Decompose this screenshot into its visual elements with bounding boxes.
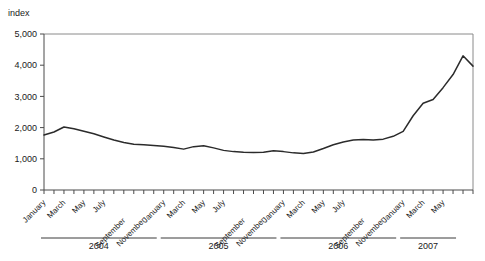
y-tick-label: 4,000: [14, 60, 37, 70]
x-tick-label: May: [190, 198, 207, 215]
plot-border: [44, 34, 473, 190]
y-tick-label: 3,000: [14, 92, 37, 102]
x-tick-label: March: [45, 198, 67, 220]
data-line-series: [44, 56, 473, 154]
y-tick-label: 0: [32, 185, 37, 195]
x-tick-label: May: [429, 198, 446, 215]
x-tick-label: March: [404, 198, 426, 220]
chart-canvas: index01,0002,0003,0004,0005,000JanuaryMa…: [0, 0, 485, 261]
x-tick-label: January: [21, 198, 47, 224]
x-tick-label: March: [285, 198, 307, 220]
x-tick-label: January: [141, 198, 167, 224]
year-label: 2007: [418, 241, 438, 251]
line-chart: index01,0002,0003,0004,0005,000JanuaryMa…: [0, 0, 485, 261]
y-axis-title: index: [8, 8, 30, 18]
x-tick-label: May: [310, 198, 327, 215]
y-tick-label: 2,000: [14, 123, 37, 133]
y-tick-label: 5,000: [14, 29, 37, 39]
x-tick-label: July: [211, 198, 227, 214]
x-tick-label: March: [165, 198, 187, 220]
x-tick-label: January: [380, 198, 406, 224]
x-tick-label: January: [260, 198, 286, 224]
y-tick-label: 1,000: [14, 154, 37, 164]
x-tick-label: May: [70, 198, 87, 215]
year-label: 2006: [328, 241, 348, 251]
x-tick-label: July: [91, 198, 107, 214]
year-label: 2005: [209, 241, 229, 251]
x-tick-label: July: [330, 198, 346, 214]
year-label: 2004: [89, 241, 109, 251]
